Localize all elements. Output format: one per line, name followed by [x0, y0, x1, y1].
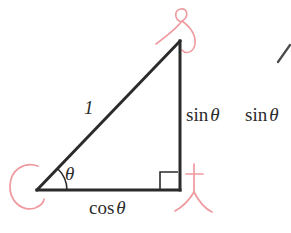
adjacent-side-label: cosθ	[89, 198, 126, 217]
angle-theta-label: θ	[65, 164, 74, 183]
cos-function-name: cos	[89, 197, 114, 218]
diagonal-fragment-right-icon	[278, 45, 290, 62]
opposite-side-label-repeat: sinθ	[245, 105, 279, 124]
sin-function-name: sin	[186, 104, 208, 125]
cos-argument: θ	[114, 197, 125, 218]
right-angle-marker	[160, 172, 178, 190]
opposite-side-label: sinθ	[186, 105, 220, 124]
sin-argument: θ	[208, 104, 219, 125]
sin-argument-repeat: θ	[267, 104, 278, 125]
sin-function-name-repeat: sin	[245, 104, 267, 125]
hypotenuse-label: 1	[84, 98, 94, 117]
right-triangle	[37, 41, 180, 190]
triangle-figure-canvas: 1 θ sinθ sinθ cosθ	[0, 0, 291, 233]
triangle-side-hypotenuse	[37, 41, 180, 190]
